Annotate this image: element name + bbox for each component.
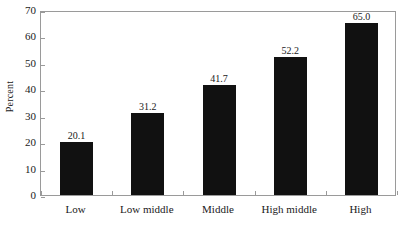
y-axis-tick-label: 30 (8, 111, 36, 122)
bar (131, 113, 164, 195)
x-axis-tick-label: Low (40, 203, 111, 215)
bar-value-label: 20.1 (47, 131, 107, 141)
x-axis-tick-labels: LowLow middleMiddleHigh middleHigh (40, 203, 396, 223)
bar-chart: Percent 706050403020100 20.131.241.752.2… (0, 0, 404, 234)
y-axis-tick-label: 20 (8, 137, 36, 148)
plot-area: 20.131.241.752.265.0 (40, 11, 396, 196)
y-axis-tick-label: 0 (8, 190, 36, 201)
y-axis-tick-label: 40 (8, 84, 36, 95)
y-axis-tick-label: 50 (8, 58, 36, 69)
x-axis-tick-label: Middle (182, 203, 253, 215)
bar-series: 20.131.241.752.265.0 (41, 12, 395, 195)
bar-value-label: 41.7 (189, 74, 249, 84)
bar (60, 142, 93, 195)
y-axis-tick-label: 60 (8, 31, 36, 42)
x-axis-tick (397, 191, 398, 195)
chart-title (150, 0, 260, 3)
bar (274, 57, 307, 195)
x-axis-tick-label: Low middle (111, 203, 182, 215)
y-axis-tick-label: 10 (8, 164, 36, 175)
bar-value-label: 65.0 (331, 12, 391, 22)
bar (203, 85, 236, 195)
x-axis-tick-label: High (325, 203, 396, 215)
x-axis-tick-label: High middle (254, 203, 325, 215)
y-axis-tick-labels: 706050403020100 (8, 11, 36, 196)
y-axis-tick (41, 197, 45, 198)
y-axis-tick-label: 70 (8, 5, 36, 16)
bar-value-label: 31.2 (118, 102, 178, 112)
bar-value-label: 52.2 (260, 46, 320, 56)
bar (345, 23, 378, 195)
